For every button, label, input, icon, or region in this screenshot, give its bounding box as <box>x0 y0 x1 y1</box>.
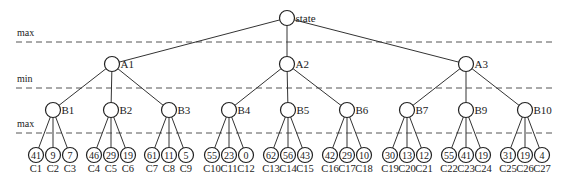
leaf-value: 0 <box>244 150 249 161</box>
b-b5-label: B5 <box>297 104 310 116</box>
minimax-tree-diagram: maxminmax stateA1A2A3B1B2B3B4B5B6B7B9B10… <box>0 0 564 186</box>
level-label: max <box>17 27 34 38</box>
leaf-value: 41 <box>461 150 471 161</box>
leaf-label: C11 <box>220 163 237 174</box>
leaf-label: C2 <box>47 163 59 174</box>
tree-edge <box>59 69 106 106</box>
leaf-label: C6 <box>122 163 134 174</box>
leaf-value: 23 <box>224 150 234 161</box>
leaf-label: C27 <box>533 163 551 174</box>
tree-edge <box>333 117 345 148</box>
leaf-value: 13 <box>402 150 412 161</box>
leaf-label: C18 <box>355 163 373 174</box>
leaf-label: C17 <box>338 163 356 174</box>
b-b4-label: B4 <box>238 104 251 116</box>
b-b7-node <box>400 103 415 118</box>
leaf-label: C5 <box>105 163 117 174</box>
tree-edge <box>472 69 519 106</box>
leaf-value: 56 <box>283 150 293 161</box>
leaf-value: 55 <box>444 150 454 161</box>
root-node <box>280 11 295 26</box>
leaf-label: C20 <box>398 163 416 174</box>
leaf-value: 5 <box>184 150 189 161</box>
b-b2-node <box>104 103 119 118</box>
tree-edge <box>413 69 460 106</box>
tree-edge <box>114 117 126 148</box>
a-a2-label: A2 <box>296 58 309 70</box>
tree-edge <box>393 117 405 148</box>
a-a3-label: A3 <box>475 58 489 70</box>
leaf-label: C24 <box>474 163 492 174</box>
b-b2-label: B2 <box>120 104 133 116</box>
b-b9-node <box>459 103 474 118</box>
b-b5-node <box>281 103 296 118</box>
b-b10-node <box>518 103 533 118</box>
leaf-value: 10 <box>359 150 369 161</box>
a-a3-node <box>459 57 474 72</box>
b-b6-label: B6 <box>356 104 369 116</box>
tree-edge <box>293 69 341 106</box>
b-b3-label: B3 <box>178 104 191 116</box>
root-label: state <box>296 12 316 24</box>
b-b10-label: B10 <box>534 104 553 116</box>
tree-edge <box>235 69 281 106</box>
tree-edge <box>119 20 279 62</box>
b-b9-label: B9 <box>475 104 488 116</box>
leaf-label: C22 <box>440 163 458 174</box>
leaf-value: 29 <box>342 150 352 161</box>
leaf-label: C21 <box>415 163 433 174</box>
b-b6-node <box>340 103 355 118</box>
leaf-value: 4 <box>540 150 545 161</box>
leaf-value: 9 <box>51 150 56 161</box>
b-b3-node <box>162 103 177 118</box>
leaf-label: C9 <box>180 163 192 174</box>
leaf-value: 61 <box>147 150 157 161</box>
leaf-value: 7 <box>68 150 73 161</box>
leaf-value: 29 <box>106 150 116 161</box>
leaf-label: C13 <box>262 163 280 174</box>
leaf-value: 42 <box>325 150 335 161</box>
a-a2-node <box>280 57 295 72</box>
level-label: max <box>17 118 34 129</box>
level-label: min <box>17 73 33 84</box>
b-b7-label: B7 <box>416 104 429 116</box>
leaf-value: 11 <box>164 150 174 161</box>
leaf-value: 46 <box>89 150 99 161</box>
leaf-value: 43 <box>300 150 310 161</box>
leaf-value: 62 <box>266 150 276 161</box>
leaf-value: 31 <box>503 150 513 161</box>
tree-edge <box>111 71 112 102</box>
tree-edge <box>287 71 288 102</box>
leaf-label: C19 <box>381 163 399 174</box>
leaf-value: 12 <box>419 150 429 161</box>
leaf-value: 41 <box>31 150 41 161</box>
tree-edge <box>118 69 163 106</box>
tree-nodes: stateA1A2A3B1B2B3B4B5B6B7B9B1041C19C27C3… <box>29 11 553 175</box>
tree-edge <box>274 117 286 148</box>
a-a1-node <box>105 57 120 72</box>
leaf-label: C16 <box>321 163 339 174</box>
leaf-label: C4 <box>88 163 101 174</box>
leaf-label: C3 <box>64 163 76 174</box>
leaf-label: C1 <box>30 163 42 174</box>
leaf-value: 55 <box>207 150 217 161</box>
leaf-value: 19 <box>123 150 133 161</box>
leaf-label: C15 <box>296 163 314 174</box>
leaf-label: C25 <box>499 163 517 174</box>
leaf-label: C8 <box>163 163 175 174</box>
tree-edge <box>294 20 458 62</box>
leaf-value: 19 <box>478 150 488 161</box>
a-a1-label: A1 <box>121 58 134 70</box>
leaf-label: C23 <box>457 163 475 174</box>
tree-edges <box>39 20 540 148</box>
b-b1-label: B1 <box>62 104 75 116</box>
leaf-label: C12 <box>237 163 255 174</box>
leaf-label: C7 <box>146 163 158 174</box>
leaf-label: C10 <box>203 163 221 174</box>
b-b4-node <box>222 103 237 118</box>
leaf-label: C14 <box>279 163 297 174</box>
b-b1-node <box>46 103 61 118</box>
leaf-value: 30 <box>385 150 395 161</box>
leaf-value: 19 <box>520 150 530 161</box>
leaf-label: C26 <box>516 163 534 174</box>
